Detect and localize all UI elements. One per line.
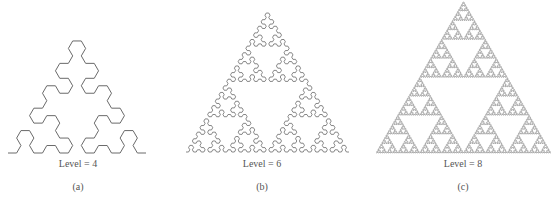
curve-path <box>376 2 551 153</box>
panel-caption: (c) <box>457 181 468 192</box>
panel-c: Level = 8 (c) <box>0 0 556 198</box>
level-label: Level = 8 <box>444 158 482 169</box>
